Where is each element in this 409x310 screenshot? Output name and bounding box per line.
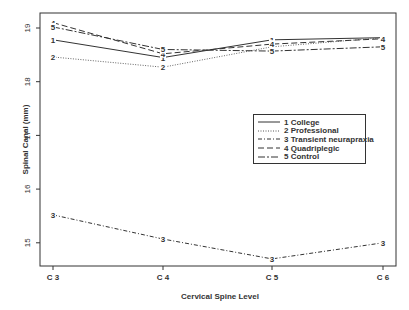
line-sample-solid-icon — [258, 119, 280, 125]
legend: 1 College 2 Professional 3 Transient neu… — [253, 114, 366, 164]
legend-item-quadriplegic: 4 Quadriplegic — [258, 144, 365, 153]
y-tick-label: 18 — [23, 77, 32, 86]
legend-item-control: 5 Control — [258, 152, 365, 161]
series-marker-5: 5 — [270, 47, 275, 56]
y-tick-label: 16 — [23, 184, 32, 193]
legend-label: 5 Control — [284, 152, 319, 161]
x-tick-label: C 5 — [266, 273, 279, 282]
line-sample-dashdot-long-icon — [258, 154, 280, 160]
series-marker-5: 5 — [51, 23, 56, 32]
line-sample-dotted-icon — [258, 128, 280, 134]
series-marker-5: 5 — [381, 43, 386, 52]
series-marker-2: 2 — [161, 63, 166, 72]
x-tick-label: C 6 — [377, 273, 390, 282]
series-marker-5: 5 — [161, 45, 166, 54]
legend-item-transient-neurapraxia: 3 Transient neurapraxia — [258, 135, 365, 144]
series-marker-1: 1 — [51, 36, 56, 45]
series-marker-3: 3 — [51, 211, 56, 220]
series-line-3 — [53, 215, 383, 259]
series-marker-3: 3 — [270, 255, 275, 264]
series-line-2 — [53, 38, 383, 68]
y-tick-label: 15 — [23, 238, 32, 247]
series-marker-3: 3 — [381, 239, 386, 248]
series-marker-3: 3 — [161, 235, 166, 244]
line-sample-longdash-icon — [258, 145, 280, 151]
legend-item-professional: 2 Professional — [258, 127, 365, 136]
x-axis-title: Cervical Spine Level — [140, 292, 300, 301]
x-tick-label: C 3 — [47, 273, 60, 282]
series-line-1 — [53, 38, 383, 58]
y-axis-title: Spinal Canal (mm) — [21, 95, 30, 185]
legend-item-college: 1 College — [258, 118, 365, 127]
x-tick-label: C 4 — [157, 273, 170, 282]
series-marker-2: 2 — [51, 53, 56, 62]
line-sample-dashdot-icon — [258, 136, 280, 142]
y-tick-label: 19 — [23, 23, 32, 32]
